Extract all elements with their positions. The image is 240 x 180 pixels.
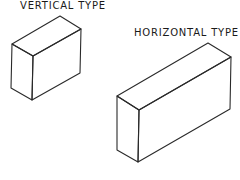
brick-diagram (0, 0, 240, 180)
horizontal-brick (117, 43, 231, 162)
horizontal-brick-left-face (117, 96, 139, 162)
vertical-brick-left-face (11, 44, 33, 100)
vertical-brick-front-face (32, 29, 81, 100)
horizontal-brick-top-face (117, 43, 231, 110)
horizontal-brick-front-face (138, 57, 231, 162)
vertical-brick (11, 16, 81, 100)
